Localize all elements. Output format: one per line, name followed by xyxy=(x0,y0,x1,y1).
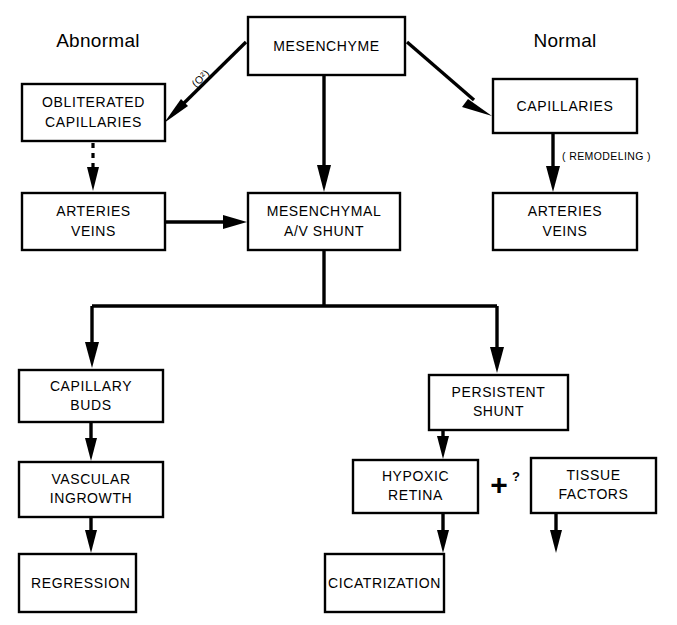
heading-abnormal: Abnormal xyxy=(56,30,140,51)
node-tissue-factors: TISSUE FACTORS xyxy=(531,458,656,513)
arrow-persistent-shunt-to-hypoxic-retina xyxy=(437,431,449,459)
node-arteries-veins-left-label-line2: VEINS xyxy=(71,223,116,239)
node-arteries-veins-left: ARTERIES VEINS xyxy=(22,193,165,250)
node-mesenchymal-av-shunt-label-line2: A/V SHUNT xyxy=(284,223,364,239)
node-tissue-factors-label-line2: FACTORS xyxy=(558,486,628,502)
arrow-vascular-ingrowth-to-regression xyxy=(85,518,97,553)
node-capillary-buds-label-line2: BUDS xyxy=(70,397,111,413)
node-vascular-ingrowth-label-line2: INGROWTH xyxy=(50,490,133,506)
node-persistent-shunt-label-line2: SHUNT xyxy=(473,403,524,419)
heading-normal: Normal xyxy=(533,30,596,51)
node-capillaries: CAPILLARIES xyxy=(493,79,637,133)
node-mesenchyme: MESENCHYME xyxy=(248,17,405,75)
node-arteries-veins-right: ARTERIES VEINS xyxy=(493,193,637,250)
node-obliterated-capillaries-label-line1: OBLITERATED xyxy=(42,94,145,110)
arrow-mesenchyme-to-shunt xyxy=(317,75,331,192)
node-hypoxic-retina-label-line2: RETINA xyxy=(388,487,443,503)
node-hypoxic-retina: HYPOXIC RETINA xyxy=(353,460,478,513)
node-regression: REGRESSION xyxy=(19,554,136,612)
node-capillary-buds: CAPILLARY BUDS xyxy=(19,370,163,422)
node-arteries-veins-right-label-line1: ARTERIES xyxy=(528,203,603,219)
arrow-capillaries-to-arteries-veins-right xyxy=(546,134,560,192)
arrow-mesenchyme-to-capillaries xyxy=(407,42,492,116)
arrow-tissue-factors-to-cicatrization xyxy=(550,514,562,553)
flowchart-diagram: Abnormal Normal MESENCHYME OBLITERATED C… xyxy=(0,0,677,625)
node-regression-label: REGRESSION xyxy=(31,575,130,591)
node-capillaries-label: CAPILLARIES xyxy=(517,98,614,114)
node-vascular-ingrowth: VASCULAR INGROWTH xyxy=(19,462,163,517)
node-persistent-shunt: PERSISTENT SHUNT xyxy=(429,375,568,430)
annotation-oxygen: (O²) xyxy=(189,67,212,90)
plus-sign: + xyxy=(490,468,508,501)
annotation-remodeling: ( REMODELING ) xyxy=(562,150,651,162)
node-mesenchymal-av-shunt: MESENCHYMAL A/V SHUNT xyxy=(248,193,400,250)
arrow-obliterated-capillaries-to-arteries-veins-dashed xyxy=(87,143,99,191)
arrow-mesenchyme-to-obliterated-capillaries xyxy=(164,42,246,123)
node-arteries-veins-right-label-line2: VEINS xyxy=(542,223,587,239)
node-obliterated-capillaries-label-line2: CAPILLARIES xyxy=(45,114,142,130)
connector-shunt-split xyxy=(85,251,504,373)
node-arteries-veins-left-label-line1: ARTERIES xyxy=(56,203,131,219)
flowchart-canvas: Abnormal Normal MESENCHYME OBLITERATED C… xyxy=(0,0,677,625)
node-cicatrization-label: CICATRIZATION xyxy=(328,575,441,591)
arrow-arteries-veins-to-shunt xyxy=(166,215,247,229)
node-hypoxic-retina-label-line1: HYPOXIC xyxy=(382,468,449,484)
node-obliterated-capillaries: OBLITERATED CAPILLARIES xyxy=(22,84,165,141)
node-mesenchyme-label: MESENCHYME xyxy=(273,38,379,54)
node-cicatrization: CICATRIZATION xyxy=(325,554,444,612)
arrow-hypoxic-retina-to-cicatrization xyxy=(437,514,449,553)
node-persistent-shunt-label-line1: PERSISTENT xyxy=(452,384,546,400)
node-mesenchymal-av-shunt-label-line1: MESENCHYMAL xyxy=(267,203,382,219)
arrow-capillary-buds-to-vascular-ingrowth xyxy=(85,423,97,461)
node-capillary-buds-label-line1: CAPILLARY xyxy=(50,378,132,394)
plus-question-symbol: + ? xyxy=(490,468,520,501)
node-vascular-ingrowth-label-line1: VASCULAR xyxy=(51,471,130,487)
question-mark: ? xyxy=(512,469,520,484)
node-tissue-factors-label-line1: TISSUE xyxy=(566,467,620,483)
